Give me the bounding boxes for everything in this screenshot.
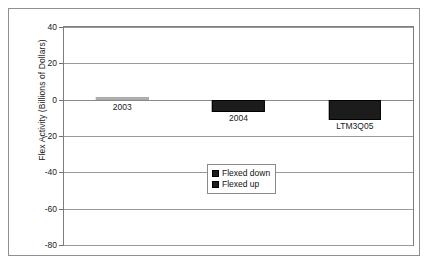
y-axis-tick-label: -80 bbox=[15, 240, 57, 250]
y-axis-tick-label: 20 bbox=[15, 58, 57, 68]
y-axis-tick-label: 40 bbox=[15, 22, 57, 32]
legend-entry: Flexed down bbox=[212, 168, 270, 179]
category-label: LTM3Q05 bbox=[336, 121, 373, 131]
chart-frame: Flex Activity (Billions of Dollars) 4020… bbox=[8, 8, 420, 256]
plot-area: 20032004LTM3Q05 bbox=[63, 26, 414, 246]
y-axis-tick-label: -60 bbox=[15, 204, 57, 214]
bar-group: 2004 bbox=[180, 27, 296, 245]
bar-group: 2003 bbox=[64, 27, 180, 245]
bar bbox=[96, 97, 148, 100]
chart-legend: Flexed downFlexed up bbox=[207, 164, 276, 194]
y-axis-tick-label: -20 bbox=[15, 131, 57, 141]
bar bbox=[329, 100, 381, 120]
legend-swatch-icon bbox=[212, 181, 219, 188]
category-label: 2003 bbox=[113, 102, 132, 112]
legend-entry: Flexed up bbox=[212, 179, 270, 190]
gridline bbox=[64, 245, 413, 246]
y-axis-tick-label: -40 bbox=[15, 167, 57, 177]
y-axis-tick-label: 0 bbox=[15, 95, 57, 105]
legend-label: Flexed up bbox=[222, 179, 259, 190]
category-label: 2004 bbox=[229, 113, 248, 123]
legend-swatch-icon bbox=[212, 170, 219, 177]
legend-label: Flexed down bbox=[222, 168, 270, 179]
bar bbox=[212, 100, 264, 113]
bar-group: LTM3Q05 bbox=[297, 27, 413, 245]
